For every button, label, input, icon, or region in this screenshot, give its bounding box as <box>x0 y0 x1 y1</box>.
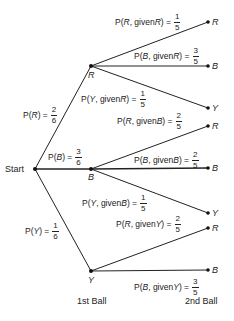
label-r-given-y: P(R, given Y) = 25 <box>116 215 181 234</box>
label-b-given-r: P(B, given R) = 35 <box>134 47 199 66</box>
label-p-y: P(Y) = 16 <box>25 222 59 241</box>
node-first-b: B <box>88 173 94 182</box>
label-y-given-r: P(Y, given R) = 15 <box>81 90 146 109</box>
node-br: R <box>212 122 219 131</box>
first-ball-label: 1st Ball <box>77 297 107 306</box>
node-bb: B <box>212 164 218 173</box>
start-label: Start <box>5 165 24 174</box>
node-yr: R <box>212 224 219 233</box>
node-rb: B <box>212 62 218 71</box>
node-rr: R <box>212 18 219 27</box>
start-dot <box>33 167 37 171</box>
label-p-r: P(R) = 26 <box>23 106 57 125</box>
label-p-b: P(B) = 36 <box>48 148 82 167</box>
node-first-y: Y <box>88 276 94 285</box>
node-ry: Y <box>212 104 218 113</box>
label-r-given-b: P(R, given B) = 25 <box>117 112 182 131</box>
node-by: Y <box>212 209 218 218</box>
probability-tree-diagram: Start R B Y R B Y R B Y R B P(R) = 26 P(… <box>0 0 234 321</box>
label-b-given-y: P(B, given Y) = 35 <box>134 278 199 297</box>
label-b-given-b: P(B, given B) = 25 <box>134 151 199 170</box>
node-first-r: R <box>88 71 95 80</box>
node-yb: B <box>212 266 218 275</box>
label-r-given-r: P(R, given R) = 15 <box>115 13 180 32</box>
second-ball-label: 2nd Ball <box>185 297 218 306</box>
label-y-given-b: P(Y, given B) = 15 <box>82 194 147 213</box>
